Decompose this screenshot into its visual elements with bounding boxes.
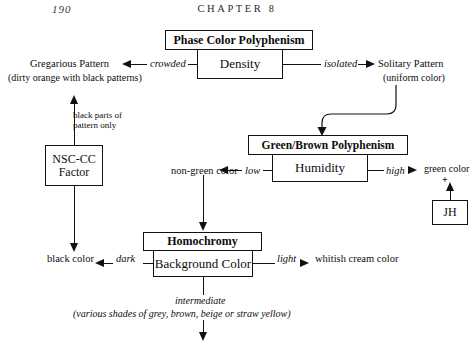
label-solitary-pattern: Solitary Pattern xyxy=(378,58,444,69)
label-crowded: crowded xyxy=(150,58,186,69)
edge-density-isolated-stub xyxy=(283,64,321,65)
edge-crowded-left-seg xyxy=(131,64,147,65)
label-black-parts-line2: pattern only xyxy=(73,120,116,130)
node-nsc-cc-factor: NSC-CC Factor xyxy=(45,145,103,186)
node-homochromy-label: Homochromy xyxy=(167,235,237,248)
node-density-label: Density xyxy=(220,57,260,71)
label-intermediate-detail: (various shades of grey, brown, beige or… xyxy=(73,308,291,319)
node-phase-color-polyphenism-label: Phase Color Polyphenism xyxy=(173,34,304,47)
arrowhead-to-green-color xyxy=(408,166,417,174)
node-jh: JH xyxy=(432,200,468,225)
node-nsc-cc-factor-line1: NSC-CC xyxy=(52,153,95,166)
label-non-green-color: non-green color xyxy=(171,165,238,176)
node-nsc-cc-factor-line2: Factor xyxy=(52,166,95,179)
label-whitish-cream-color: whitish cream color xyxy=(315,253,398,264)
label-intermediate: intermediate xyxy=(175,295,226,306)
label-green-color: green color xyxy=(424,163,469,174)
arrowhead-to-black-color-down xyxy=(70,243,78,252)
node-background-color-label: Background Color xyxy=(155,257,251,271)
edge-bgcolor-light-stub xyxy=(253,263,275,264)
figure-canvas: 190 CHAPTER 8 Phase Color Polyphenism De… xyxy=(0,0,474,345)
node-jh-label: JH xyxy=(443,206,456,219)
label-dark: dark xyxy=(116,253,135,264)
arrowhead-jh-up xyxy=(446,182,454,191)
edge-bgcolor-intermediate-upper xyxy=(203,277,204,295)
node-green-brown-polyphenism-label: Green/Brown Polyphenism xyxy=(262,139,395,151)
label-black-parts-line1: black parts of xyxy=(73,110,122,120)
node-humidity-label: Humidity xyxy=(295,161,345,175)
node-phase-color-polyphenism: Phase Color Polyphenism xyxy=(165,30,313,50)
edge-jh-to-green xyxy=(450,190,451,200)
label-high: high xyxy=(386,165,405,176)
arrowhead-to-solitary xyxy=(366,60,375,68)
chapter-running-head: CHAPTER 8 xyxy=(0,3,474,14)
label-solitary-pattern-detail: (uniform color) xyxy=(383,72,445,83)
label-gregarious-pattern-detail: (dirty orange with black patterns) xyxy=(8,72,142,83)
label-black-color: black color xyxy=(47,253,94,264)
node-green-brown-polyphenism: Green/Brown Polyphenism xyxy=(248,135,408,155)
node-humidity: Humidity xyxy=(272,154,368,182)
arrowhead-intermediate-down xyxy=(199,332,207,341)
arrowhead-to-whitish-cream xyxy=(300,259,309,267)
arrowhead-to-gregarious xyxy=(122,60,131,68)
arrowhead-to-gregarious-up xyxy=(70,95,78,104)
arrowhead-to-homochromy-down xyxy=(199,222,207,231)
label-low: low xyxy=(245,165,260,176)
node-background-color: Background Color xyxy=(153,250,253,277)
label-gregarious-pattern: Gregarious Pattern xyxy=(30,58,109,69)
edge-humidity-high-stub xyxy=(368,170,384,171)
edge-non-green-to-homochromy xyxy=(203,175,204,223)
node-density: Density xyxy=(197,49,283,79)
label-isolated: isolated xyxy=(324,58,357,69)
label-light: light xyxy=(277,253,296,264)
arrowhead-to-black-color xyxy=(95,259,104,267)
node-homochromy: Homochromy xyxy=(143,232,262,251)
edge-dark-left-seg xyxy=(104,263,113,264)
